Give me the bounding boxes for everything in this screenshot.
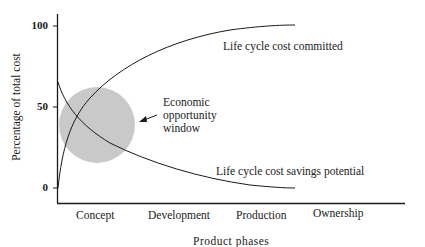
phase-concept: Concept xyxy=(76,209,114,221)
committed-label: Life cycle cost committed xyxy=(223,40,343,52)
phase-ownership: Ownership xyxy=(313,207,363,219)
phase-development: Development xyxy=(148,209,210,221)
opportunity-window-circle xyxy=(59,87,135,163)
y-tick-label-50: 50 xyxy=(24,100,48,112)
y-tick-label-100: 100 xyxy=(24,19,48,31)
phase-production: Production xyxy=(236,209,286,221)
window-arrow-head xyxy=(139,116,147,122)
opportunity-window-label: Economic opportunity window xyxy=(163,96,217,135)
savings-label: Life cycle cost savings potential xyxy=(216,165,364,177)
x-axis-label: Product phases xyxy=(193,235,269,247)
window-label-line1: Economic xyxy=(163,96,217,109)
window-label-line3: window xyxy=(163,122,217,135)
y-tick-label-0: 0 xyxy=(24,181,48,193)
y-axis-label: Percentage of total cost xyxy=(10,47,22,167)
window-label-line2: opportunity xyxy=(163,109,217,122)
